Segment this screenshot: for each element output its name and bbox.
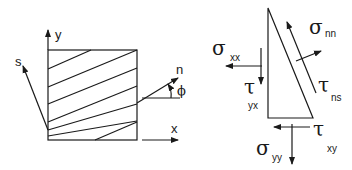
svg-text:xx: xx [230, 52, 240, 63]
svg-text:xy: xy [327, 143, 337, 154]
s-label: s [15, 54, 22, 69]
y-label: y [55, 27, 62, 42]
label-sigma-yy: σ yy [256, 136, 282, 163]
svg-text:σ: σ [309, 15, 323, 39]
wedge-element [268, 8, 313, 118]
stress-transformation-diagram: y s n ϕ x σ xx τ yx σ nn τ ns τ xy σ yy [0, 0, 352, 170]
svg-text:τ: τ [244, 75, 255, 99]
n-label: n [176, 62, 183, 77]
label-tau-xy: τ xy [313, 117, 337, 154]
svg-text:ns: ns [331, 92, 342, 103]
angle-arc [168, 84, 171, 98]
hatch-lines [48, 50, 137, 140]
svg-text:nn: nn [325, 28, 336, 39]
label-sigma-xx: σ xx [212, 36, 240, 63]
svg-text:τ: τ [313, 117, 324, 141]
phi-label: ϕ [177, 83, 186, 98]
svg-text:τ: τ [318, 73, 329, 97]
label-tau-yx: τ yx [244, 75, 258, 111]
s-axis-arrow [23, 66, 48, 130]
left-figure [23, 30, 180, 140]
label-sigma-nn: σ nn [309, 15, 336, 39]
n-axis-arrow [137, 78, 178, 103]
right-figure [226, 8, 321, 164]
svg-text:σ: σ [256, 136, 270, 160]
x-label: x [171, 121, 178, 136]
svg-text:yy: yy [272, 152, 282, 163]
label-tau-ns: τ ns [318, 73, 342, 103]
svg-text:σ: σ [212, 36, 226, 60]
svg-text:yx: yx [248, 100, 258, 111]
